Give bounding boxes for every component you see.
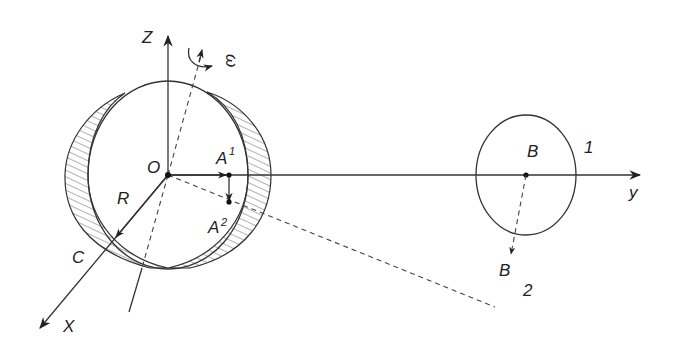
point-c-label: C bbox=[72, 248, 85, 267]
a2-superscript: 2 bbox=[220, 216, 227, 228]
physics-diagram: Z ω O A 1 A 2 R C X y B 1 B 2 bbox=[0, 0, 683, 348]
z-axis-label: Z bbox=[141, 28, 153, 47]
x-axis-label: X bbox=[62, 317, 75, 336]
omega-axis-arrow bbox=[199, 50, 202, 62]
b-displacement-arrow bbox=[511, 175, 526, 254]
a1-superscript: 1 bbox=[229, 145, 235, 157]
position-1-label: 1 bbox=[584, 138, 593, 157]
point-a1 bbox=[226, 172, 231, 177]
omega-label: ω bbox=[222, 54, 241, 67]
b-lower-label: B bbox=[499, 261, 510, 280]
a1-label: A bbox=[215, 149, 227, 168]
rotation-axis-dashed-upper bbox=[168, 52, 202, 175]
b-upper-label: B bbox=[527, 142, 538, 161]
y-axis-label: y bbox=[628, 183, 639, 202]
radius-label: R bbox=[117, 189, 129, 208]
dashed-line-o-to-2 bbox=[168, 175, 495, 307]
rotation-axis-dashed-lower bbox=[142, 175, 168, 268]
point-a2 bbox=[226, 199, 231, 204]
origin-point bbox=[165, 172, 171, 178]
rotation-axis-solid bbox=[129, 268, 142, 312]
a2-label: A bbox=[207, 218, 219, 237]
origin-label: O bbox=[147, 158, 160, 177]
position-2-label: 2 bbox=[522, 281, 533, 300]
